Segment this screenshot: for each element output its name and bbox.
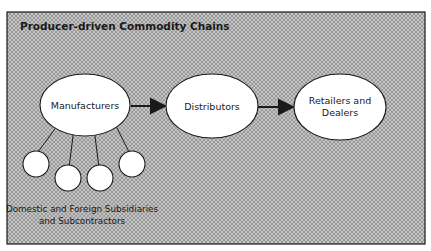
subsidiary-circle — [119, 151, 145, 177]
node-manufacturers: Manufacturers — [40, 74, 130, 136]
subsidiaries-caption-line2: and Subcontractors — [39, 216, 126, 226]
subsidiary-circle — [87, 165, 113, 191]
node-label: Manufacturers — [51, 100, 120, 111]
diagram-canvas: Producer-driven Commodity Chains Manufac… — [0, 0, 431, 251]
subsidiary-circle — [55, 165, 81, 191]
node-distributors: Distributors — [166, 74, 258, 138]
node-retailers: Retailers and Dealers — [294, 74, 386, 140]
node-label-line2: Dealers — [322, 107, 358, 118]
diagram-title: Producer-driven Commodity Chains — [20, 20, 230, 32]
subsidiaries-caption-line1: Domestic and Foreign Subsidiaries — [6, 204, 159, 214]
subsidiary-circle — [23, 151, 49, 177]
node-label: Distributors — [184, 101, 240, 112]
node-label-line1: Retailers and — [309, 95, 371, 106]
